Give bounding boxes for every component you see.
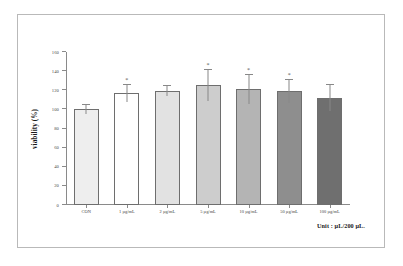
error-bar-line [248,75,249,104]
bar [155,91,180,205]
x-axis-tick-label: 100 µg/mL [320,209,340,214]
error-bar-line [86,105,87,115]
figure-container: viability (%) 020406080100120140160 CON*… [0,0,403,266]
bar-group: 100 µg/mL [317,52,342,205]
error-bar-cap [123,84,131,85]
y-axis-tick: 140 [62,70,66,71]
y-axis-tick: 0 [62,204,66,205]
y-axis-tick: 20 [62,185,66,186]
error-bar-cap [204,69,212,70]
bar-group: *5 µg/mL [196,52,221,205]
y-axis-title: viability (%) [29,52,41,205]
bar [196,85,221,205]
x-axis-tick [86,205,87,208]
x-axis-tick [127,205,128,208]
y-axis-tick-label: 60 [54,145,59,150]
bar [114,93,139,205]
bar [74,109,99,205]
error-bar-line [289,80,290,103]
significance-marker: * [207,62,210,68]
y-axis-tick-label: 140 [52,68,59,73]
significance-marker: * [125,77,128,83]
bar-group: 2 µg/mL [155,52,180,205]
bar [317,98,342,205]
bar [236,89,261,205]
error-bar-cap [326,84,334,85]
error-bar-cap [285,79,293,80]
y-axis-tick-label: 40 [54,164,59,169]
bar-group: *10 µg/mL [236,52,261,205]
y-axis-tick: 160 [62,51,66,52]
x-axis-tick-label: 5 µg/mL [200,209,216,214]
y-axis-tick: 60 [62,147,66,148]
error-bar-cap [163,85,171,86]
y-axis-tick-label: 120 [52,87,59,92]
y-axis-tick-label: 0 [57,202,59,207]
y-axis-tick-label: 20 [54,183,59,188]
bar-group: *1 µg/mL [114,52,139,205]
error-bar-line [329,85,330,112]
bar [277,91,302,205]
y-axis-tick: 40 [62,166,66,167]
x-axis-tick-label: 1 µg/mL [119,209,135,214]
error-bar-line [208,70,209,101]
x-axis-tick [167,205,168,208]
y-axis-tick: 80 [62,128,66,129]
x-axis-tick [249,205,250,208]
y-axis-tick-label: 100 [52,106,59,111]
x-axis-tick [330,205,331,208]
y-axis-tick: 100 [62,108,66,109]
y-axis-title-label: viability (%) [31,108,39,148]
x-axis-tick-label: CON [82,209,91,214]
x-axis-tick-label: 50 µg/mL [280,209,298,214]
y-axis-tick-label: 80 [54,126,59,131]
y-axis-tick-label: 160 [52,49,59,54]
error-bar-line [126,85,127,102]
error-bar-line [167,86,168,96]
significance-marker: * [288,72,291,78]
plot-area: 020406080100120140160 CON*1 µg/mL2 µg/mL… [66,52,350,205]
y-axis-line [66,52,67,205]
unit-annotation: Unit : µL/200 µL. [317,222,365,229]
x-axis-tick [289,205,290,208]
error-bar-cap [82,104,90,105]
significance-marker: * [247,67,250,73]
bar-group: *50 µg/mL [277,52,302,205]
x-axis-tick-label: 2 µg/mL [160,209,176,214]
x-axis-tick-label: 10 µg/mL [240,209,258,214]
bar-group: CON [74,52,99,205]
y-axis-tick: 120 [62,89,66,90]
x-axis-tick [208,205,209,208]
error-bar-cap [245,74,253,75]
